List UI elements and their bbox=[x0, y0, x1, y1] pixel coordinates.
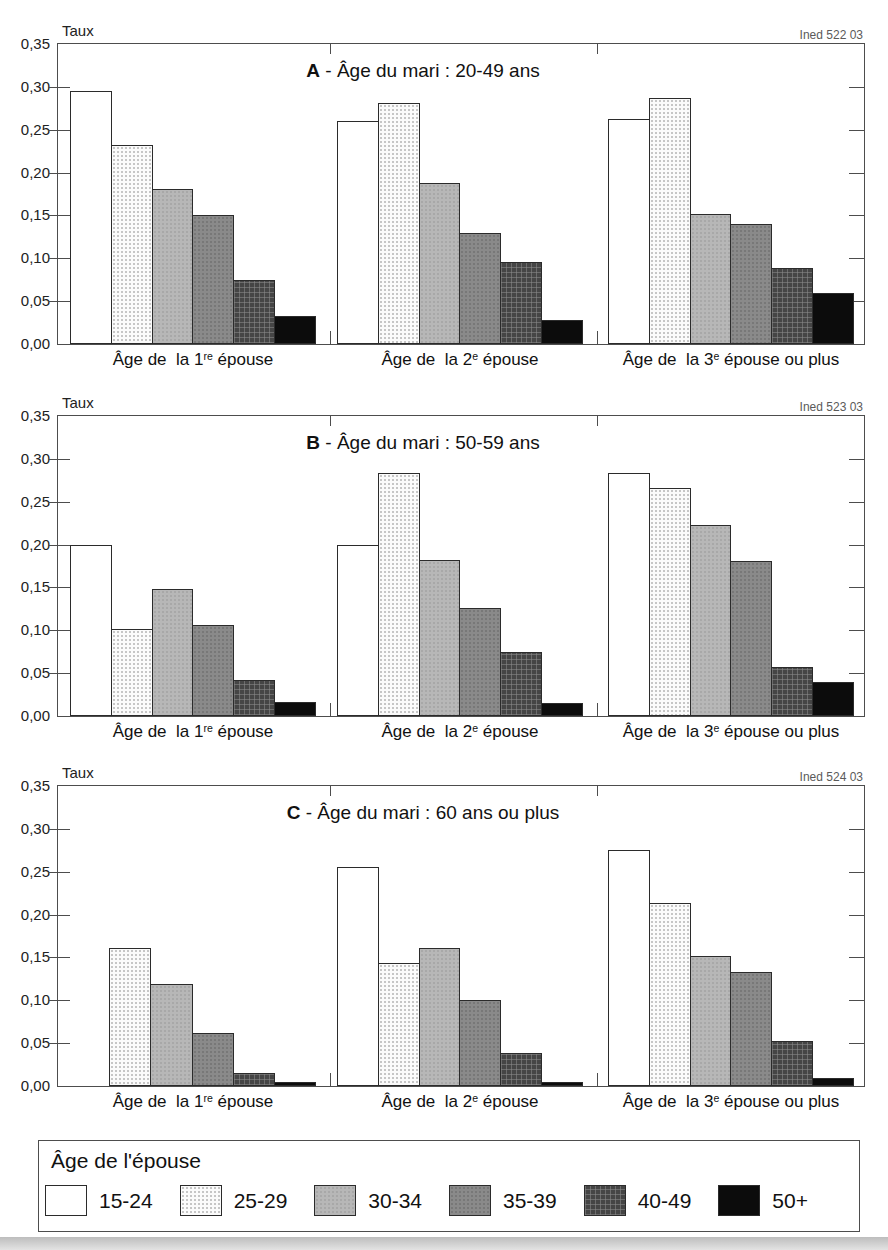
group-boundary-tick-bottom bbox=[330, 331, 331, 344]
plot-area: A - Âge du mari : 20-49 ans 0,350,300,25… bbox=[57, 43, 865, 345]
bar-30-34 bbox=[150, 984, 192, 1086]
y-tick-left bbox=[48, 957, 70, 958]
y-tick-left bbox=[48, 1000, 70, 1001]
bar-50+ bbox=[812, 682, 854, 716]
legend-item-50+: 50+ bbox=[718, 1185, 853, 1216]
bar-group bbox=[70, 786, 316, 1086]
bar-40-49 bbox=[233, 280, 275, 344]
bar-25-29 bbox=[649, 903, 691, 1086]
x-group-label: Âge de la 3e épouse ou plus bbox=[571, 1092, 888, 1112]
x-group-label: Âge de la 3e épouse ou plus bbox=[571, 722, 888, 742]
bar-30-34 bbox=[419, 560, 461, 716]
y-tick-left bbox=[48, 130, 70, 131]
chart-panel-a: Taux Ined 522 03 A - Âge du mari : 20-49… bbox=[0, 15, 888, 387]
legend-label: 30-34 bbox=[368, 1189, 422, 1213]
legend-items-row: 15-2425-2930-3435-3940-4950+ bbox=[45, 1185, 853, 1216]
group-boundary-tick-top bbox=[597, 44, 598, 54]
bar-15-24 bbox=[337, 121, 379, 344]
group-boundary-tick-bottom bbox=[597, 1073, 598, 1086]
bar-40-49 bbox=[500, 1053, 542, 1086]
bar-25-29 bbox=[378, 963, 420, 1086]
bar-35-39 bbox=[192, 1033, 234, 1086]
y-tick-left bbox=[48, 587, 70, 588]
y-tick-left bbox=[48, 87, 70, 88]
y-tick-left bbox=[48, 915, 70, 916]
bar-35-39 bbox=[459, 1000, 501, 1086]
y-tick-label: 0,20 bbox=[2, 164, 50, 181]
legend-swatch-crosshatch-dark bbox=[584, 1185, 626, 1216]
legend-swatch-dots-light bbox=[180, 1185, 222, 1216]
y-tick-label: 0,35 bbox=[2, 407, 50, 424]
bar-group bbox=[608, 416, 854, 716]
bar-25-29 bbox=[378, 473, 420, 716]
group-boundary-tick-bottom bbox=[330, 1073, 331, 1086]
bar-25-29 bbox=[378, 103, 420, 344]
group-boundary-tick-top bbox=[597, 416, 598, 426]
y-tick-label: 0,05 bbox=[2, 664, 50, 681]
bar-group bbox=[608, 786, 854, 1086]
legend-swatch-gray-light bbox=[314, 1185, 356, 1216]
group-boundary-tick-top bbox=[330, 44, 331, 54]
y-tick-left bbox=[48, 545, 70, 546]
bar-group bbox=[70, 416, 316, 716]
bar-group bbox=[337, 416, 583, 716]
source-label: Ined 523 03 bbox=[800, 400, 863, 414]
bar-40-49 bbox=[771, 1041, 813, 1086]
group-boundary-tick-top bbox=[330, 786, 331, 796]
legend-label: 50+ bbox=[772, 1189, 808, 1213]
y-axis-title: Taux bbox=[62, 764, 94, 781]
y-axis-title: Taux bbox=[62, 394, 94, 411]
bar-30-34 bbox=[419, 183, 461, 344]
y-tick-label: 0,25 bbox=[2, 121, 50, 138]
bar-15-24 bbox=[337, 545, 379, 716]
source-label: Ined 524 03 bbox=[800, 770, 863, 784]
bar-25-29 bbox=[109, 948, 151, 1086]
y-tick-label: 0,25 bbox=[2, 493, 50, 510]
chart-panel-c: Taux Ined 524 03 C - Âge du mari : 60 an… bbox=[0, 757, 888, 1129]
legend-label: 40-49 bbox=[638, 1189, 692, 1213]
chart-panel-b: Taux Ined 523 03 B - Âge du mari : 50-59… bbox=[0, 387, 888, 759]
bar-35-39 bbox=[459, 608, 501, 716]
bar-group bbox=[337, 786, 583, 1086]
y-tick-left bbox=[48, 872, 70, 873]
y-tick-left bbox=[48, 173, 70, 174]
legend-label: 35-39 bbox=[503, 1189, 557, 1213]
y-tick-label: 0,10 bbox=[2, 249, 50, 266]
bar-50+ bbox=[541, 320, 583, 344]
bar-15-24 bbox=[608, 850, 650, 1086]
bar-40-49 bbox=[233, 1073, 275, 1086]
bar-40-49 bbox=[500, 652, 542, 716]
y-tick-label: 0,30 bbox=[2, 450, 50, 467]
bar-group bbox=[337, 44, 583, 344]
bar-35-39 bbox=[730, 224, 772, 344]
bar-35-39 bbox=[730, 972, 772, 1086]
y-tick-left bbox=[48, 829, 70, 830]
y-tick-label: 0,15 bbox=[2, 206, 50, 223]
bar-group bbox=[70, 44, 316, 344]
bar-30-34 bbox=[690, 956, 732, 1086]
y-tick-left bbox=[48, 673, 70, 674]
bar-30-34 bbox=[152, 189, 194, 344]
bar-35-39 bbox=[730, 561, 772, 716]
source-label: Ined 522 03 bbox=[800, 28, 863, 42]
bar-40-49 bbox=[233, 680, 275, 716]
bar-15-24 bbox=[70, 545, 112, 716]
y-tick-left bbox=[48, 258, 70, 259]
y-tick-label: 0,25 bbox=[2, 863, 50, 880]
bar-30-34 bbox=[419, 948, 461, 1086]
x-group-label: Âge de la 3e épouse ou plus bbox=[571, 350, 888, 370]
y-tick-label: 0,05 bbox=[2, 292, 50, 309]
plot-area: C - Âge du mari : 60 ans ou plus 0,350,3… bbox=[57, 785, 865, 1087]
bar-25-29 bbox=[111, 145, 153, 344]
bar-40-49 bbox=[500, 262, 542, 344]
page-bottom-edge bbox=[0, 1237, 888, 1250]
legend-swatch-black bbox=[718, 1185, 760, 1216]
bar-30-34 bbox=[690, 525, 732, 716]
bar-group bbox=[608, 44, 854, 344]
legend-swatch-gray-medium bbox=[449, 1185, 491, 1216]
legend: Âge de l'épouse 15-2425-2930-3435-3940-4… bbox=[38, 1140, 860, 1232]
legend-title: Âge de l'épouse bbox=[51, 1149, 201, 1173]
legend-label: 25-29 bbox=[234, 1189, 288, 1213]
bar-35-39 bbox=[192, 625, 234, 716]
bar-15-24 bbox=[608, 119, 650, 344]
